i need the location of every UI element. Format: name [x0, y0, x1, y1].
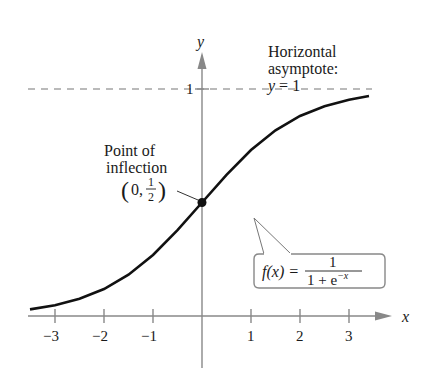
svg-text:y = 1: y = 1 — [266, 77, 300, 95]
svg-text:Horizontal: Horizontal — [268, 43, 337, 60]
y-tick-label-1: 1 — [186, 81, 194, 97]
svg-text:−1: −1 — [141, 328, 157, 344]
svg-text:1: 1 — [247, 328, 255, 344]
x-axis-label: x — [401, 308, 409, 325]
svg-text:−3: −3 — [43, 328, 59, 344]
sigmoid-chart: x y 1 −3 −2 −1 1 2 3 Horizontal asymptot… — [0, 0, 428, 374]
svg-text:−2: −2 — [92, 328, 108, 344]
x-axis-arrow-icon — [375, 312, 392, 321]
svg-text:inflection: inflection — [106, 159, 167, 176]
svg-text:1: 1 — [148, 175, 154, 189]
y-axis-label: y — [195, 33, 205, 51]
svg-text:f(x) =: f(x) = — [262, 263, 299, 281]
svg-text:Point of: Point of — [104, 142, 156, 159]
svg-text:(: ( — [121, 177, 129, 203]
inflection-point-marker — [198, 198, 207, 207]
svg-text:1: 1 — [329, 254, 337, 270]
svg-text:3: 3 — [345, 328, 353, 344]
inflection-leader-line — [177, 191, 198, 200]
formula-callout: f(x) = 1 1 + e−x — [254, 218, 385, 288]
inflection-annotation: Point of inflection ( 0, 1 2 ) — [104, 142, 167, 204]
x-tick-labels: −3 −2 −1 1 2 3 — [43, 328, 353, 344]
svg-text:2: 2 — [148, 190, 154, 204]
svg-text:2: 2 — [296, 328, 304, 344]
svg-text:0,: 0, — [131, 181, 143, 198]
svg-text:asymptote:: asymptote: — [268, 60, 338, 78]
asymptote-annotation: Horizontal asymptote: y = 1 — [266, 43, 338, 95]
y-axis-arrow-icon — [198, 52, 207, 69]
svg-text:): ) — [158, 177, 166, 203]
